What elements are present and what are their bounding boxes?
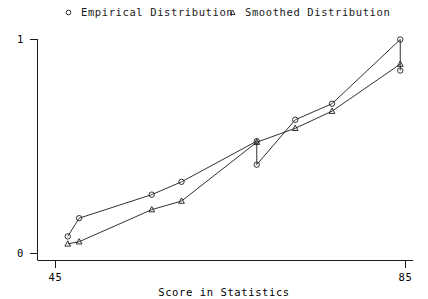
triangle-marker-icon bbox=[329, 108, 335, 113]
circle-marker-icon bbox=[398, 68, 403, 73]
circle-marker-icon bbox=[293, 117, 298, 122]
x-axis-tick-label-right: 85 bbox=[399, 271, 413, 283]
triangle-marker-icon bbox=[397, 61, 403, 66]
legend-item-empirical-distribution: Empirical Distribution bbox=[64, 6, 233, 18]
x-axis-tick-label-left: 45 bbox=[49, 271, 63, 283]
chart-root: Empirical Distribution Smoothed Distribu… bbox=[0, 0, 428, 299]
triangle-marker-icon bbox=[179, 198, 185, 203]
axes bbox=[30, 39, 413, 268]
circle-marker-icon bbox=[76, 215, 81, 220]
circle-marker-icon bbox=[65, 234, 70, 239]
circle-marker-icon bbox=[398, 37, 403, 42]
y-axis-tick-label-top: 1 bbox=[17, 33, 24, 45]
chart-plot-area: 1 0 45 85 Score in Statistics bbox=[0, 0, 428, 299]
circle-marker-icon bbox=[149, 192, 154, 197]
series-circle bbox=[65, 37, 403, 239]
y-axis-tick-label-bottom: 0 bbox=[17, 247, 24, 259]
series-line bbox=[68, 40, 401, 237]
series-line bbox=[68, 64, 401, 244]
chart-legend: Empirical Distribution Smoothed Distribu… bbox=[0, 0, 428, 26]
circle-marker-icon bbox=[179, 179, 184, 184]
circle-marker-icon bbox=[254, 162, 259, 167]
legend-label-smoothed: Smoothed Distribution bbox=[245, 6, 390, 18]
data-series-layer bbox=[65, 37, 403, 246]
x-axis-title: Score in Statistics bbox=[158, 286, 290, 298]
circle-marker-icon bbox=[64, 8, 73, 17]
legend-label-empirical: Empirical Distribution bbox=[81, 6, 233, 18]
triangle-marker-icon bbox=[228, 8, 237, 17]
legend-item-smoothed-distribution: Smoothed Distribution bbox=[228, 6, 390, 18]
circle-marker-icon bbox=[329, 101, 334, 106]
